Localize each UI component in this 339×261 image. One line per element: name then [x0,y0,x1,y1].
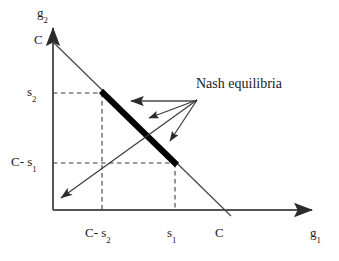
y-tick-c-text: C [34,32,43,47]
nash-annotation-arrow-2 [149,100,197,118]
y-tick-s2: s2 [27,85,36,98]
nash-annotation-arrow-3 [170,100,197,141]
x-tick-c-minus-s2-text: C- s [85,225,106,240]
y-tick-s2-sub: 2 [32,94,36,104]
x-tick-s1: s1 [167,226,176,239]
nash-equilibria-segment [101,91,177,165]
x-axis-label: g1 [310,226,321,239]
x-tick-c-minus-s2-sub: 2 [106,235,110,245]
x-axis-label-sub: 1 [317,235,321,245]
figure-canvas [0,0,339,261]
y-tick-c: C [34,33,43,46]
y-axis-label-sub: 2 [44,15,48,25]
y-axis-label: g2 [37,6,48,19]
x-axis-label-text: g [310,225,317,240]
x-tick-s1-sub: 1 [172,235,176,245]
y-tick-c-minus-s1: C- s1 [11,155,37,168]
y-tick-c-minus-s1-sub: 1 [32,164,36,174]
y-tick-c-minus-s1-text: C- s [11,154,32,169]
x-tick-c: C [215,226,224,239]
nash-equilibria-figure: g2 C s2 C- s1 C- s2 s1 C g1 Nash equilib… [0,0,339,261]
nash-equilibria-annotation-label: Nash equilibria [196,77,282,91]
x-tick-c-text: C [215,225,224,240]
y-axis-label-text: g [37,5,44,20]
x-tick-c-minus-s2: C- s2 [85,226,111,239]
